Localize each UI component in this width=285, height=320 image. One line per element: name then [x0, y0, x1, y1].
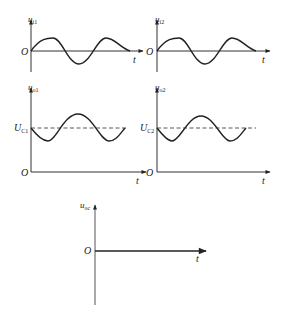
t-label: t — [262, 175, 265, 186]
t-label: t — [136, 175, 139, 186]
output-wave — [31, 114, 125, 141]
y-label: ui1 — [28, 14, 37, 25]
origin-label: O — [21, 167, 28, 178]
panel-ui1: ui1 O t — [21, 14, 143, 72]
origin-label: O — [146, 46, 153, 57]
panel-ui2: ui2 O t — [146, 14, 270, 72]
panel-uo1: uo1 UC1 O t — [14, 82, 146, 186]
y-label: uoc — [80, 200, 91, 211]
panel-uoc: uoc O t — [80, 200, 206, 305]
waveform-diagram: ui1 O t ui2 O t uo1 UC1 O t uo2 UC2 O t — [0, 0, 285, 320]
panel-uo2: uo2 UC2 O t — [140, 82, 270, 186]
origin-label: O — [146, 167, 153, 178]
t-label: t — [133, 54, 136, 65]
dc-level-label: UC1 — [14, 122, 28, 134]
t-label: t — [196, 253, 199, 264]
y-label: ui2 — [155, 14, 164, 25]
output-wave — [157, 116, 246, 141]
t-label: t — [262, 54, 265, 65]
origin-label: O — [84, 245, 91, 256]
y-label: uo2 — [155, 82, 166, 93]
y-label: uo1 — [28, 82, 39, 93]
dc-level-label: UC2 — [140, 122, 154, 134]
origin-label: O — [21, 46, 28, 57]
